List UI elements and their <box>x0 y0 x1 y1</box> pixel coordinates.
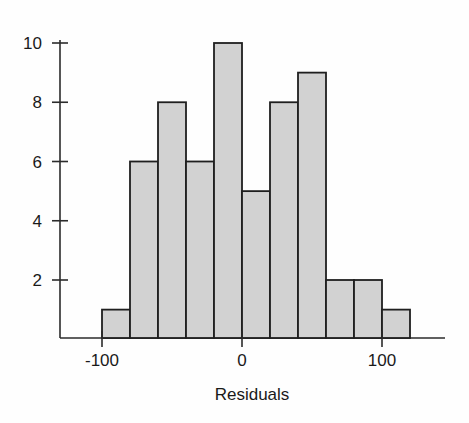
x-tick-label: 100 <box>368 351 396 370</box>
y-axis-tick-labels: 246810 <box>23 34 42 290</box>
histogram-bar <box>186 162 214 339</box>
x-tick-label: 0 <box>237 351 246 370</box>
y-tick-label: 10 <box>23 34 42 53</box>
histogram-bar <box>382 310 410 338</box>
y-tick-label: 2 <box>33 271 42 290</box>
histogram-figure: 246810 -1000100 Residuals <box>0 0 469 423</box>
histogram-bar <box>242 191 270 338</box>
y-tick-label: 8 <box>33 93 42 112</box>
x-tick-label: -100 <box>85 351 119 370</box>
histogram-bar <box>130 162 158 339</box>
histogram-bars <box>102 43 410 338</box>
residuals-histogram-plot: 246810 -1000100 Residuals <box>0 0 469 423</box>
histogram-bar <box>158 102 186 338</box>
x-axis-tick-labels: -1000100 <box>85 351 396 370</box>
histogram-bar <box>298 73 326 338</box>
histogram-bar <box>326 280 354 338</box>
histogram-bar <box>102 310 130 338</box>
y-tick-label: 6 <box>33 153 42 172</box>
histogram-bar <box>270 102 298 338</box>
y-tick-label: 4 <box>33 212 42 231</box>
x-axis-title: Residuals <box>215 385 290 404</box>
histogram-bar <box>354 280 382 338</box>
histogram-bar <box>214 43 242 338</box>
